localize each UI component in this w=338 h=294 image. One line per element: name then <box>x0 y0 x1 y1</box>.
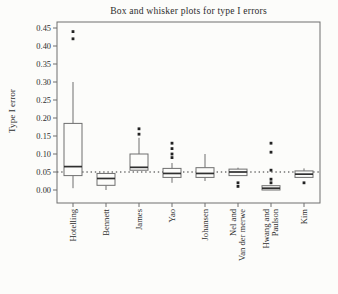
outlier-point <box>237 181 240 184</box>
y-tick-label: 0.25 <box>36 96 51 105</box>
outlier-point <box>270 151 273 154</box>
x-category-label: Hotelling <box>68 208 78 241</box>
outlier-point <box>138 127 141 130</box>
outlier-point <box>171 153 174 156</box>
x-category-label: Kim <box>299 209 309 225</box>
x-category-label: Yao <box>167 209 177 222</box>
y-tick-label: 0.10 <box>36 150 51 159</box>
y-tick-label: 0.20 <box>36 114 51 123</box>
box-bennett <box>97 173 115 185</box>
x-category-label: Bennett <box>101 208 111 235</box>
outlier-point <box>171 156 174 159</box>
outlier-point <box>270 181 273 184</box>
y-tick-label: 0.00 <box>36 186 51 195</box>
outlier-point <box>270 142 273 145</box>
y-tick-label: 0.35 <box>36 60 51 69</box>
box-johansen <box>196 168 214 178</box>
x-category-label: Johansen <box>200 208 210 240</box>
outlier-point <box>171 142 174 145</box>
box-hotelling <box>64 123 82 175</box>
y-tick-label: 0.45 <box>36 24 51 33</box>
x-category-label: James <box>134 208 144 230</box>
y-tick-label: 0.30 <box>36 78 51 87</box>
boxplot-canvas: 0.000.050.100.150.200.250.300.350.400.45… <box>0 0 338 294</box>
outlier-point <box>171 147 174 150</box>
outlier-point <box>72 30 75 33</box>
y-tick-label: 0.40 <box>36 42 51 51</box>
outlier-point <box>138 133 141 136</box>
figure: Box and whisker plots for type I errors … <box>0 0 338 294</box>
outlier-point <box>72 37 75 40</box>
plot-frame <box>57 22 320 203</box>
outlier-point <box>270 169 273 172</box>
outlier-point <box>270 178 273 181</box>
outlier-point <box>303 181 306 184</box>
outlier-point <box>237 185 240 188</box>
x-category-label: Van der merwe <box>237 209 247 261</box>
y-tick-label: 0.05 <box>36 168 51 177</box>
y-tick-label: 0.15 <box>36 132 51 141</box>
x-category-label: Paulson <box>270 208 280 236</box>
